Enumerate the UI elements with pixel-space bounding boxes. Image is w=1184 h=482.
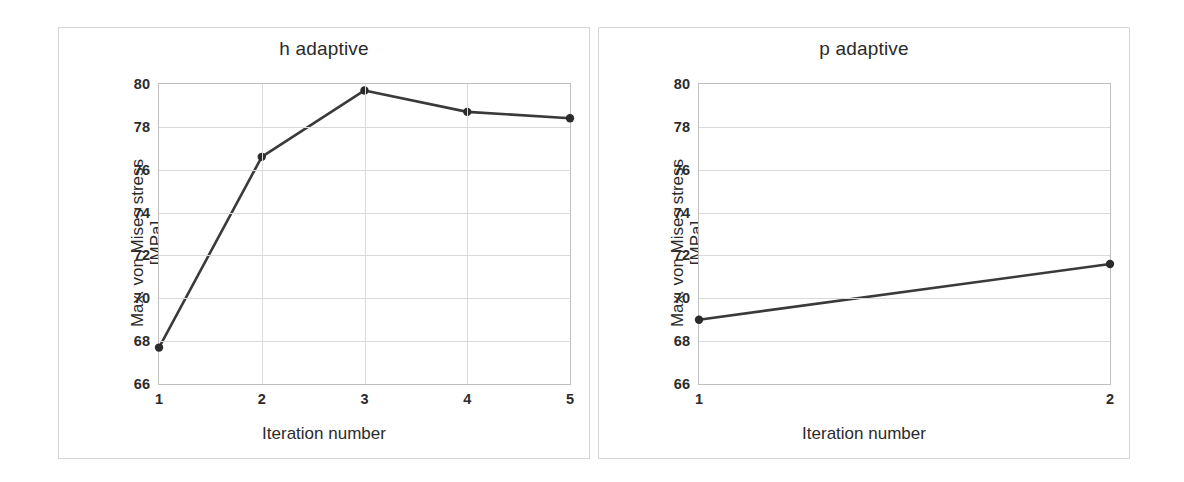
data-point-marker [695, 316, 703, 324]
y-axis-tick-label-left: 78 [134, 119, 150, 135]
plot-area-right: 666870727476788012 [698, 83, 1111, 385]
y-axis-tick-label-right: 66 [674, 376, 690, 392]
data-point-marker [155, 343, 163, 351]
figure-two-panel-convergence: h adaptive Max. von Mises stress [MPa] 6… [0, 0, 1184, 482]
x-axis-tick-label-right: 2 [1106, 391, 1114, 407]
y-axis-tick-label-left: 80 [134, 76, 150, 92]
y-axis-tick-label-right: 70 [674, 290, 690, 306]
y-axis-tick-label-left: 72 [134, 247, 150, 263]
data-point-marker [566, 114, 574, 122]
x-axis-tick-label-left: 3 [360, 391, 368, 407]
gridline-vertical [262, 84, 263, 384]
gridline-horizontal [699, 341, 1110, 342]
gridline-vertical [365, 84, 366, 384]
y-axis-tick-label-right: 76 [674, 162, 690, 178]
chart-panel-p-adaptive: p adaptive Max. von Mises stress [MPa] 6… [598, 27, 1130, 459]
x-axis-label-right: Iteration number [599, 424, 1129, 444]
series-line-p-adaptive [699, 84, 1110, 384]
gridline-horizontal [699, 255, 1110, 256]
y-axis-tick-label-left: 68 [134, 333, 150, 349]
y-axis-tick-label-right: 74 [674, 205, 690, 221]
y-axis-tick-label-right: 78 [674, 119, 690, 135]
x-axis-tick-label-right: 1 [695, 391, 703, 407]
x-axis-label-left: Iteration number [59, 424, 589, 444]
y-axis-tick-label-left: 70 [134, 290, 150, 306]
gridline-vertical [467, 84, 468, 384]
y-axis-tick-label-left: 66 [134, 376, 150, 392]
y-axis-tick-label-right: 80 [674, 76, 690, 92]
chart-title-right: p adaptive [599, 38, 1129, 60]
plot-area-left: 666870727476788012345 [158, 83, 571, 385]
x-axis-tick-label-left: 4 [463, 391, 471, 407]
gridline-horizontal [699, 213, 1110, 214]
y-axis-tick-label-right: 72 [674, 247, 690, 263]
y-axis-tick-label-left: 76 [134, 162, 150, 178]
x-axis-tick-label-left: 5 [566, 391, 574, 407]
y-axis-tick-label-left: 74 [134, 205, 150, 221]
x-axis-tick-label-left: 1 [155, 391, 163, 407]
x-axis-tick-label-left: 2 [258, 391, 266, 407]
gridline-horizontal [699, 170, 1110, 171]
gridline-horizontal [699, 127, 1110, 128]
chart-panel-h-adaptive: h adaptive Max. von Mises stress [MPa] 6… [58, 27, 590, 459]
gridline-horizontal [699, 298, 1110, 299]
data-point-marker [1106, 260, 1114, 268]
y-axis-tick-label-right: 68 [674, 333, 690, 349]
data-line [699, 264, 1110, 320]
chart-title-left: h adaptive [59, 38, 589, 60]
